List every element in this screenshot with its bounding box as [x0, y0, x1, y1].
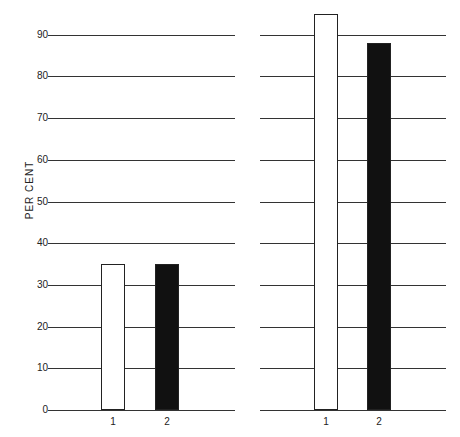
bar-2 — [155, 264, 179, 410]
y-tick-label: 60 — [24, 155, 48, 165]
x-tick-label: 1 — [316, 416, 336, 427]
x-tick-label: 1 — [103, 416, 123, 427]
gridline — [260, 76, 446, 77]
x-tick-label: 2 — [369, 416, 389, 427]
bar-1 — [101, 264, 125, 410]
bar-2 — [367, 43, 391, 410]
gridline — [48, 368, 235, 369]
gridline — [260, 410, 446, 411]
gridline — [260, 202, 446, 203]
gridline — [260, 327, 446, 328]
y-tick-label: 50 — [24, 197, 48, 207]
gridline — [48, 327, 235, 328]
gridline — [260, 118, 446, 119]
y-tick-label: 40 — [24, 238, 48, 248]
gridline — [48, 243, 235, 244]
y-tick-label: 70 — [24, 113, 48, 123]
gridline — [260, 368, 446, 369]
gridline — [260, 160, 446, 161]
y-tick-label: 20 — [24, 322, 48, 332]
y-tick-label: 30 — [24, 280, 48, 290]
gridline — [48, 202, 235, 203]
bar-1 — [314, 14, 338, 410]
y-tick-label: 80 — [24, 71, 48, 81]
gridline — [48, 160, 235, 161]
x-tick-label: 2 — [157, 416, 177, 427]
gridline — [260, 285, 446, 286]
gridline — [260, 35, 446, 36]
y-tick-label: 0 — [24, 405, 48, 415]
gridline — [48, 118, 235, 119]
gridline — [48, 76, 235, 77]
gridline — [48, 35, 235, 36]
y-tick-label: 10 — [24, 363, 48, 373]
gridline — [48, 285, 235, 286]
y-tick-label: 90 — [24, 30, 48, 40]
y-axis-label: PER CENT — [24, 160, 44, 220]
gridline — [48, 410, 235, 411]
gridline — [260, 243, 446, 244]
